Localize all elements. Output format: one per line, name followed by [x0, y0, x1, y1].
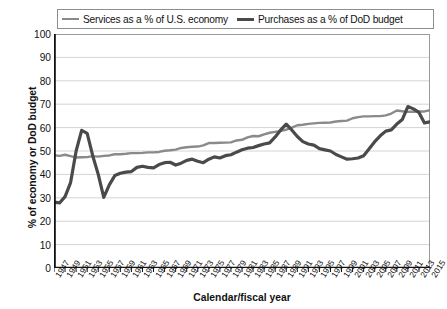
legend-line-swatch-services-icon — [62, 18, 79, 20]
y-tick-label: 30 — [20, 192, 51, 203]
legend-line-swatch-purchases-icon — [237, 18, 254, 21]
chart-container: Services as a % of U.S. economy Purchase… — [0, 0, 447, 309]
legend-entry-purchases: Purchases as a % of DoD budget — [237, 14, 403, 25]
y-tick-label: 40 — [20, 169, 51, 180]
chart-legend: Services as a % of U.S. economy Purchase… — [57, 9, 434, 29]
x-axis-title: Calendar/fiscal year — [54, 292, 430, 303]
y-tick-label: 0 — [20, 263, 51, 274]
y-tick-label: 10 — [20, 239, 51, 250]
chart-svg — [54, 34, 430, 268]
y-tick-label: 50 — [20, 146, 51, 157]
legend-entry-services: Services as a % of U.S. economy — [62, 14, 228, 25]
y-tick-label: 90 — [20, 52, 51, 63]
y-tick-label: 100 — [20, 29, 51, 40]
y-tick-label: 60 — [20, 122, 51, 133]
y-tick-label: 20 — [20, 216, 51, 227]
y-axis-tick-labels: 0102030405060708090100 — [20, 34, 51, 268]
plot-area — [54, 34, 430, 268]
y-tick-label: 80 — [20, 75, 51, 86]
y-tick-label: 70 — [20, 99, 51, 110]
legend-label-purchases: Purchases as a % of DoD budget — [258, 14, 403, 25]
legend-label-services: Services as a % of U.S. economy — [83, 14, 228, 25]
